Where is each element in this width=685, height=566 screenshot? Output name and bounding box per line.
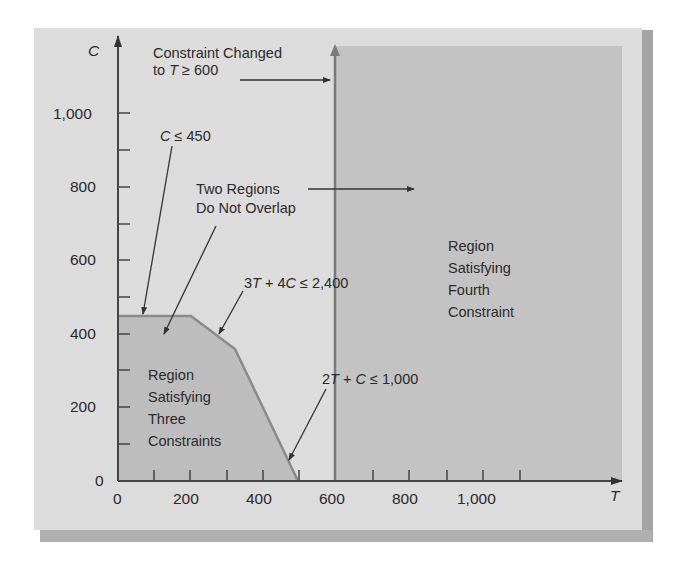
arrow-c450 <box>143 146 172 314</box>
y-axis-label: C <box>88 42 99 60</box>
x-tick-label: 200 <box>173 490 199 508</box>
annotation-eq-3t-4c: 3T + 4C ≤ 2,400 <box>244 275 348 292</box>
x-tick-label: 400 <box>246 490 272 508</box>
arrow-eq2 <box>289 389 326 460</box>
y-tick-label: 0 <box>95 472 104 490</box>
label-region-three-constraints: Region Satisfying Three Constraints <box>148 364 221 452</box>
y-tick-label: 1,000 <box>53 105 92 123</box>
annotation-eq-2t-c: 2T + C ≤ 1,000 <box>322 371 418 388</box>
x-tick-label: 800 <box>392 490 418 508</box>
x-tick-label: 1,000 <box>457 490 496 508</box>
x-tick-label: 0 <box>113 490 122 508</box>
y-tick-label: 400 <box>70 325 96 343</box>
arrow-eq1 <box>219 291 243 334</box>
y-tick-label: 200 <box>70 398 96 416</box>
x-tick-label: 600 <box>319 490 345 508</box>
label-region-fourth-constraint: Region Satisfying Fourth Constraint <box>448 235 514 323</box>
y-tick-label: 800 <box>70 178 96 196</box>
x-axis-label: T <box>610 487 619 505</box>
annotation-constraint-changed: Constraint Changed to T ≥ 600 <box>153 45 282 79</box>
annotation-no-overlap: Two Regions Do Not Overlap <box>196 181 296 217</box>
annotation-c-le-450: C ≤ 450 <box>160 128 211 145</box>
y-tick-label: 600 <box>70 251 96 269</box>
